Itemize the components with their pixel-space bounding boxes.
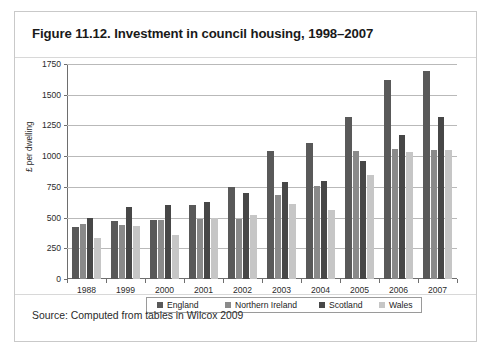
- bar: [399, 135, 406, 279]
- bar: [314, 186, 321, 279]
- y-tick-label: 1250: [42, 120, 61, 130]
- bar: [172, 235, 179, 279]
- bar-group: [72, 64, 100, 279]
- bar-group: [111, 64, 139, 279]
- y-tick-label: 0: [56, 274, 61, 284]
- bar: [80, 224, 87, 279]
- y-tick-label: 1000: [42, 151, 61, 161]
- x-tick-mark: [340, 279, 341, 283]
- x-tick-mark: [379, 279, 380, 283]
- y-tick-label: 1750: [42, 59, 61, 69]
- bar: [353, 151, 360, 279]
- y-axis-label: £ per dwelling: [25, 121, 34, 172]
- bar: [367, 175, 374, 279]
- x-tick-mark: [67, 279, 68, 283]
- source-divider: [15, 294, 476, 295]
- legend-item-scotland[interactable]: Scotland: [319, 300, 362, 310]
- bar: [321, 181, 328, 279]
- x-tick-mark: [418, 279, 419, 283]
- bar-group: [384, 64, 412, 279]
- x-tick-mark: [145, 279, 146, 283]
- chart-plot-area: 02505007501000125015001750 1988199920002…: [67, 64, 457, 279]
- x-tick-mark: [262, 279, 263, 283]
- source-note: Source: Computed from tables in Wilcox 2…: [32, 310, 243, 321]
- y-tick-mark: [64, 248, 67, 249]
- legend-item-label: England: [167, 300, 199, 310]
- y-tick-mark: [64, 95, 67, 96]
- figure-card: Figure 11.12. Investment in council hous…: [14, 11, 477, 342]
- bar: [189, 205, 196, 279]
- bar: [126, 207, 133, 279]
- y-tick-mark: [64, 187, 67, 188]
- bar: [119, 225, 126, 279]
- bar: [165, 205, 172, 279]
- bar: [384, 80, 391, 279]
- y-tick-label: 500: [47, 213, 61, 223]
- bar: [197, 219, 204, 279]
- bar: [158, 220, 165, 279]
- bar: [423, 71, 430, 279]
- bar-group: [345, 64, 373, 279]
- bar-group: [150, 64, 178, 279]
- bar: [406, 152, 413, 279]
- legend-swatch-icon: [225, 302, 231, 308]
- bar: [250, 215, 257, 279]
- bar: [328, 210, 335, 279]
- page-title: Figure 11.12. Investment in council hous…: [32, 26, 373, 41]
- bar: [392, 149, 399, 279]
- bar: [289, 204, 296, 279]
- bar-group: [423, 64, 451, 279]
- bar: [345, 117, 352, 279]
- bar: [236, 219, 243, 279]
- y-tick-label: 750: [47, 182, 61, 192]
- bar: [243, 193, 250, 279]
- bar-group: [189, 64, 217, 279]
- y-tick-mark: [64, 64, 67, 65]
- bar: [111, 221, 118, 279]
- bar-group: [306, 64, 334, 279]
- bar: [275, 195, 282, 279]
- y-tick-label: 1500: [42, 90, 61, 100]
- bar: [267, 151, 274, 279]
- bar: [438, 117, 445, 279]
- x-tick-mark: [184, 279, 185, 283]
- bar: [228, 187, 235, 279]
- y-tick-label: 250: [47, 243, 61, 253]
- legend-swatch-icon: [379, 302, 385, 308]
- bar: [431, 150, 438, 279]
- legend-item-label: Wales: [389, 300, 413, 310]
- x-tick-mark: [301, 279, 302, 283]
- bar: [94, 238, 101, 279]
- x-tick-mark: [106, 279, 107, 283]
- legend-swatch-icon: [319, 302, 325, 308]
- y-tick-mark: [64, 125, 67, 126]
- bar: [306, 143, 313, 279]
- y-tick-mark: [64, 156, 67, 157]
- legend-item-wales[interactable]: Wales: [379, 300, 413, 310]
- x-tick-mark: [223, 279, 224, 283]
- legend-item-label: Scotland: [329, 300, 362, 310]
- legend-item-label: Northern Ireland: [235, 300, 297, 310]
- bar: [72, 227, 79, 279]
- bar: [282, 182, 289, 279]
- bar: [87, 218, 94, 279]
- legend-swatch-icon: [157, 302, 163, 308]
- bar: [445, 150, 452, 279]
- bar: [211, 218, 218, 279]
- title-divider: [15, 57, 476, 58]
- y-tick-mark: [64, 218, 67, 219]
- x-tick-mark: [457, 279, 458, 283]
- bar: [204, 202, 211, 279]
- bar: [360, 161, 367, 279]
- bar: [150, 220, 157, 279]
- bar: [133, 226, 140, 279]
- bar-group: [228, 64, 256, 279]
- bar-group: [267, 64, 295, 279]
- legend-item-england[interactable]: England: [157, 300, 199, 310]
- legend-item-northern-ireland[interactable]: Northern Ireland: [225, 300, 297, 310]
